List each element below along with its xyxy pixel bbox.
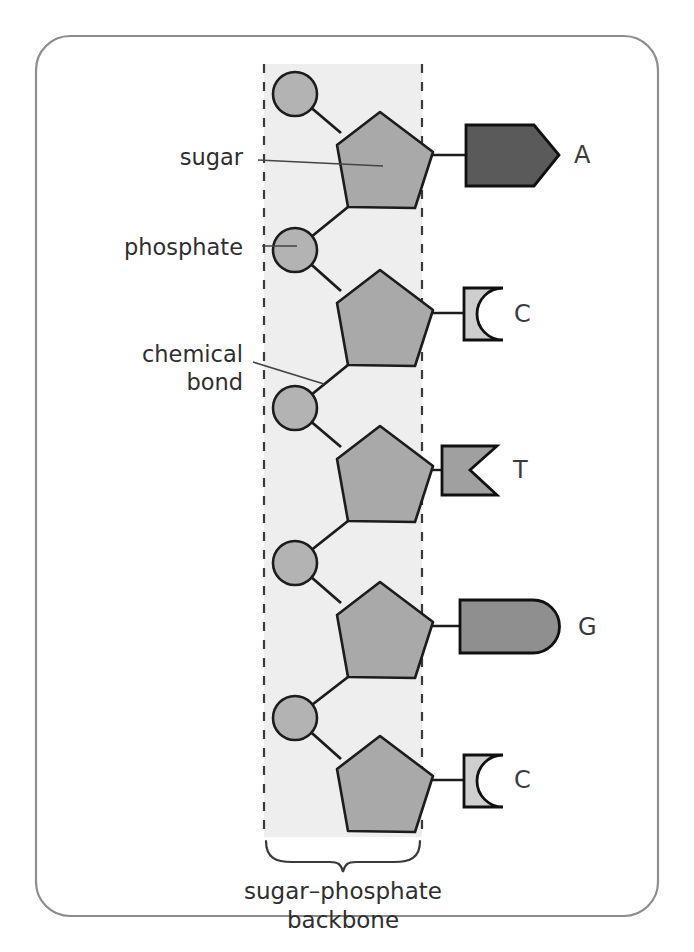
backbone-brace [266,841,420,872]
base-letter-c-upper: C [514,300,531,328]
label-sugar: sugar [180,144,244,170]
base-letter-g: G [578,613,597,641]
base-letter-a: A [574,141,591,169]
base-letter-c-lower: C [514,766,531,794]
base-shape-t [442,446,497,495]
base-shape-a [466,125,559,186]
phosphate-circle-4 [273,541,317,585]
base-shape-g [460,600,560,653]
base-letter-t: T [512,456,528,484]
label-bond: bond [186,369,243,395]
dna-structure-figure: A C T G C sugar phosphate chemical bond … [0,0,694,952]
phosphate-circle-1 [273,72,317,116]
phosphate-circle-5 [273,696,317,740]
base-shape-c-lower [464,755,503,807]
phosphate-circle-2 [273,228,317,272]
label-chemical: chemical [142,341,243,367]
base-shape-c-upper [464,288,503,340]
caption-line-1: sugar–phosphate [244,878,442,904]
dna-diagram-svg: A C T G C sugar phosphate chemical bond … [0,0,694,952]
caption-line-2: backbone [287,907,399,933]
phosphate-circle-3 [273,386,317,430]
label-phosphate: phosphate [124,234,243,260]
